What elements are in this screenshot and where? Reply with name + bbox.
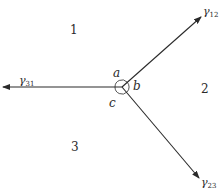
ray-gamma-12 xyxy=(122,17,201,87)
region-label-3: 3 xyxy=(71,140,79,154)
ray-label-gamma-23: γ23 xyxy=(201,176,217,190)
junction-diagram: 1 2 3 a b c γ12 γ31 γ23 xyxy=(0,0,222,194)
ray-label-gamma-31: γ31 xyxy=(19,74,35,88)
angle-label-b: b xyxy=(133,79,141,93)
angle-arc-b xyxy=(127,82,129,92)
ray-gamma-23 xyxy=(122,87,199,178)
region-label-2: 2 xyxy=(201,82,209,96)
ray-label-gamma-12: γ12 xyxy=(203,5,219,19)
angle-label-a: a xyxy=(113,66,120,80)
region-label-1: 1 xyxy=(70,23,78,37)
angle-label-c: c xyxy=(109,96,116,110)
